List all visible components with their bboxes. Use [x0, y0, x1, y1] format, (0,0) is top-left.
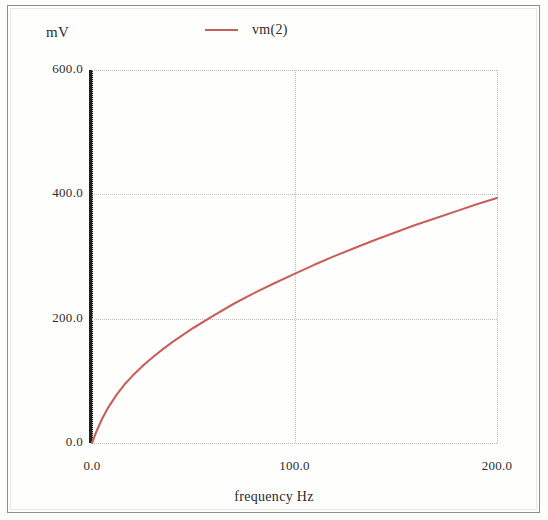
series-curve-vm2	[92, 70, 497, 443]
x-axis-tick-labels: 0.0100.0200.0	[0, 458, 548, 478]
x-axis-title: frequency Hz	[0, 489, 548, 505]
chart-figure: mV vm(2) 0.0200.0400.0600.0 0.0100.0200.…	[0, 0, 548, 520]
x-tick-label: 200.0	[482, 458, 513, 474]
y-tick-label: 400.0	[52, 185, 83, 201]
legend-label-vm2: vm(2)	[252, 22, 288, 38]
gridline-vertical	[497, 70, 498, 443]
gridline-horizontal	[92, 443, 497, 444]
legend-line-swatch-icon	[205, 29, 238, 31]
y-axis-tick-labels: 0.0200.0400.0600.0	[20, 0, 83, 520]
plot-area	[92, 70, 497, 443]
legend: vm(2)	[205, 22, 288, 38]
y-tick-label: 200.0	[52, 310, 83, 326]
x-tick-label: 0.0	[83, 458, 100, 474]
y-tick-label: 0.0	[66, 434, 83, 450]
x-tick-label: 100.0	[279, 458, 310, 474]
y-tick-label: 600.0	[52, 61, 83, 77]
